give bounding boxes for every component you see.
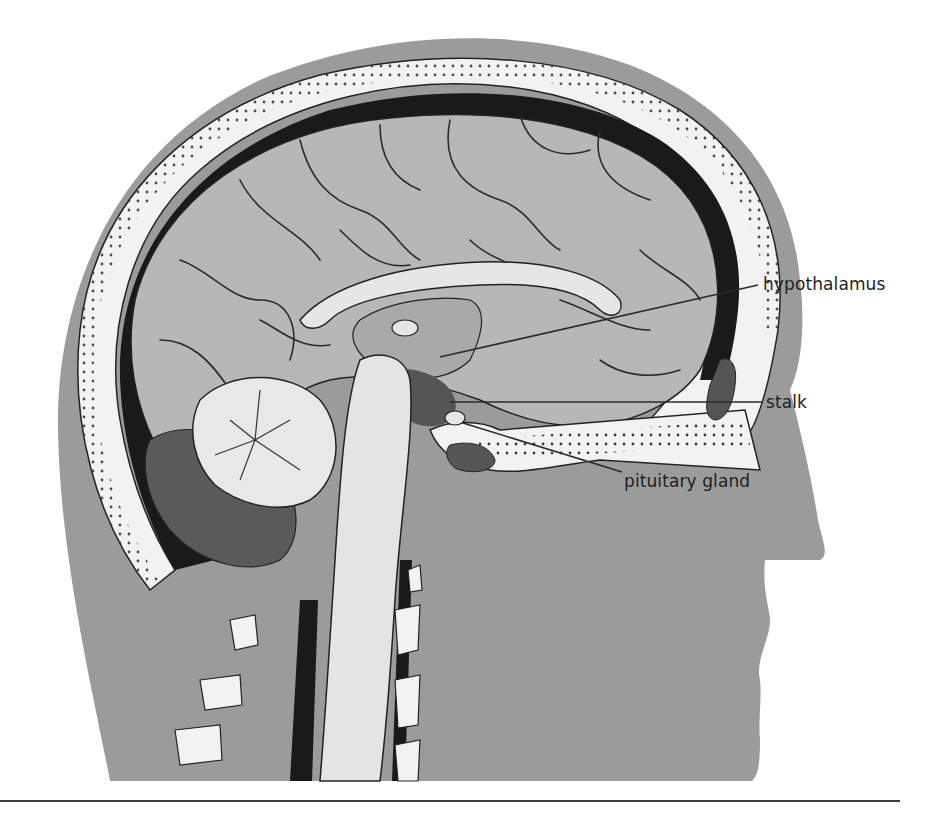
divider-rule bbox=[0, 800, 900, 802]
label-stalk: stalk bbox=[766, 394, 807, 411]
label-hypothalamus: hypothalamus bbox=[763, 276, 885, 293]
label-pituitary-gland: pituitary gland bbox=[624, 473, 750, 490]
anatomy-diagram: hypothalamus stalk pituitary gland bbox=[0, 0, 934, 819]
pituitary-gland-shape bbox=[445, 411, 465, 425]
